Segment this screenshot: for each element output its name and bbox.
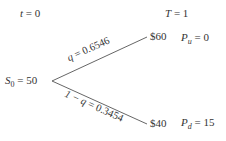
down-payoff-eq: = 15 [192,116,215,128]
root-node-label: S0 = 50 [5,75,37,89]
up-payoff-eq: = 0 [192,31,209,43]
down-payoff-var: P [181,116,188,128]
down-node-payoff: Pd = 15 [181,117,214,131]
up-node-price: $60 [150,31,167,42]
up-payoff-var: P [181,31,188,43]
down-node-price: $40 [150,118,167,129]
root-eq: = 50 [15,74,38,86]
up-node-payoff: Pu = 0 [181,32,209,46]
